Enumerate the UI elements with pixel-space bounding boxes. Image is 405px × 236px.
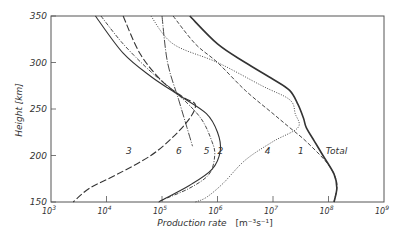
y-tick-label: 300	[30, 58, 47, 68]
curve-label: 6	[176, 146, 182, 156]
y-tick-label: 250	[30, 104, 47, 114]
x-axis-label-main: Production rate	[157, 218, 227, 228]
x-tick-label: 104	[97, 204, 111, 216]
x-tick-label: 106	[208, 204, 222, 216]
curve-5	[95, 16, 220, 202]
y-axis-ticks: 150200250300350	[30, 11, 56, 207]
curve-4	[151, 16, 299, 202]
x-tick-label: 105	[153, 204, 167, 216]
curve-1	[173, 16, 337, 202]
production-rate-chart: 150200250300350 103104105106107108109 36…	[0, 0, 405, 236]
y-axis-label: Height [km]	[14, 83, 24, 137]
curve-label: 4	[265, 146, 271, 156]
curve-labels: 365241Total	[126, 146, 348, 156]
curve-label: 2	[218, 146, 224, 156]
curve-label: 5	[204, 146, 210, 156]
curve-total	[190, 16, 337, 202]
x-tick-label: 108	[319, 204, 333, 216]
curve-label: 1	[298, 146, 304, 156]
x-tick-label: 109	[375, 204, 389, 216]
x-axis-label: Production rate [m⁻³s⁻¹]	[157, 218, 272, 228]
curve-label: Total	[326, 146, 348, 156]
curve-3	[73, 16, 195, 202]
x-axis-label-unit: [m⁻³s⁻¹]	[236, 218, 273, 228]
curves	[73, 16, 337, 202]
curve-label: 3	[126, 146, 132, 156]
y-tick-label: 350	[30, 11, 47, 21]
y-tick-label: 200	[30, 151, 47, 161]
y-tick-label: 150	[30, 197, 47, 207]
x-tick-label: 107	[264, 204, 278, 216]
x-axis-ticks: 103104105106107108109	[42, 196, 389, 216]
